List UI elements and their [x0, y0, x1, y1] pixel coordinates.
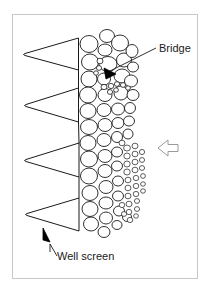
bridge-label: Bridge [159, 42, 191, 54]
well-screen-label: Well screen [57, 250, 114, 262]
well-screen-diagram: Bridge Well screen [0, 0, 210, 291]
figure-root: Bridge Well screen [0, 0, 210, 291]
